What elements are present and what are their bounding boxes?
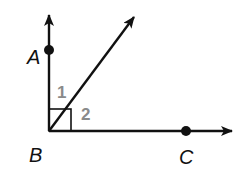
angle-2-label: 2 (81, 105, 90, 124)
point-c-dot (181, 126, 191, 136)
label-b: B (29, 144, 42, 166)
point-a-dot (44, 45, 54, 55)
angle-diagram: A B C 1 2 (0, 0, 250, 172)
angle-1-label: 1 (57, 83, 66, 102)
ray-diagonal (49, 17, 134, 131)
label-c: C (179, 146, 194, 168)
label-a: A (26, 46, 40, 68)
